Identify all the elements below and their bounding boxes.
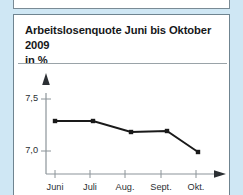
y-tick-label-7-5: 7,5 bbox=[14, 93, 38, 103]
adjacent-panel-above bbox=[13, 0, 230, 9]
data-point-sept bbox=[165, 129, 169, 133]
x-tick-label-okt: Okt. bbox=[173, 182, 219, 192]
data-point-okt bbox=[196, 150, 200, 154]
chart-card: Arbeitslosenquote Juni bis Oktober 2009 … bbox=[13, 14, 230, 195]
data-point-juni bbox=[53, 119, 57, 123]
x-axis-arrow-icon bbox=[214, 170, 226, 177]
data-point-aug bbox=[129, 130, 133, 134]
infographic-root: Arbeitslosenquote Juni bis Oktober 2009 … bbox=[0, 0, 243, 195]
y-axis-arrow-icon bbox=[42, 73, 50, 85]
data-point-juli bbox=[91, 119, 95, 123]
y-tick-label-7-0: 7,0 bbox=[14, 145, 38, 155]
line-chart-plot bbox=[14, 15, 230, 195]
series-line-arbeitslosenquote bbox=[55, 121, 198, 152]
